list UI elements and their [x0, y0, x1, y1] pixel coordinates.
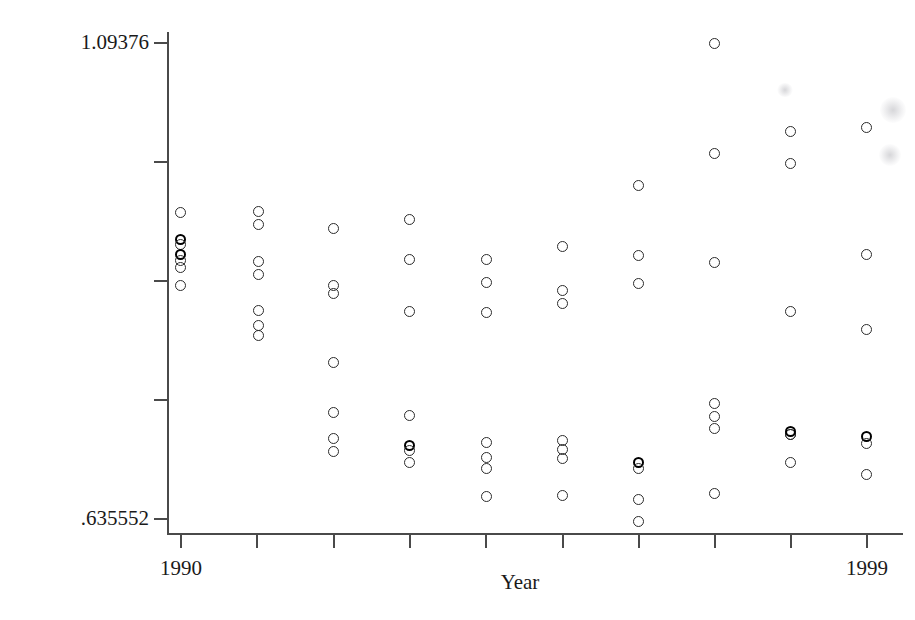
data-point	[557, 285, 568, 296]
data-point	[633, 180, 644, 191]
data-point	[253, 330, 264, 341]
data-point	[253, 219, 264, 230]
data-point	[861, 469, 872, 480]
data-point	[481, 307, 492, 318]
data-point	[328, 288, 339, 299]
data-point	[633, 494, 644, 505]
data-point	[785, 306, 796, 317]
y-axis-tick	[154, 161, 168, 163]
data-point	[481, 437, 492, 448]
scan-artifact	[879, 144, 901, 166]
x-axis-tick	[409, 535, 411, 548]
data-point	[709, 257, 720, 268]
x-axis-max-label: 1999	[836, 556, 898, 581]
data-point	[404, 410, 415, 421]
y-axis-tick	[154, 280, 168, 282]
x-axis-tick	[790, 535, 792, 548]
x-axis-tick	[485, 535, 487, 548]
data-point	[328, 446, 339, 457]
data-point	[785, 426, 796, 437]
data-point	[785, 126, 796, 137]
data-point	[175, 207, 186, 218]
data-point	[175, 280, 186, 291]
x-axis-tick	[562, 535, 564, 548]
data-point	[785, 457, 796, 468]
data-point	[404, 254, 415, 265]
data-point	[633, 250, 644, 261]
data-point	[253, 305, 264, 316]
data-point	[404, 457, 415, 468]
data-point	[404, 306, 415, 317]
data-point	[175, 239, 186, 250]
y-axis-tick	[154, 42, 168, 44]
data-point	[861, 438, 872, 449]
x-axis-tick	[333, 535, 335, 548]
data-point	[404, 445, 415, 456]
scan-artifact	[880, 97, 906, 123]
y-axis-tick	[154, 518, 168, 520]
y-axis-line	[167, 32, 169, 535]
data-point	[709, 148, 720, 159]
data-point	[557, 453, 568, 464]
data-point	[709, 423, 720, 434]
data-point	[633, 463, 644, 474]
scan-artifact	[777, 83, 793, 97]
data-point	[328, 357, 339, 368]
y-axis-max-label: 1.09376	[81, 31, 149, 53]
data-point	[481, 254, 492, 265]
data-point	[328, 223, 339, 234]
data-point	[861, 249, 872, 260]
x-axis-line	[167, 533, 903, 535]
data-point	[633, 278, 644, 289]
data-point	[481, 491, 492, 502]
data-point	[481, 277, 492, 288]
data-point	[709, 398, 720, 409]
data-point	[253, 206, 264, 217]
data-point	[328, 433, 339, 444]
x-axis-tick	[714, 535, 716, 548]
data-point	[861, 324, 872, 335]
data-point	[557, 298, 568, 309]
y-axis-min-label: .635552	[81, 507, 149, 529]
data-point	[253, 269, 264, 280]
data-point	[861, 122, 872, 133]
data-point	[253, 256, 264, 267]
y-axis-tick	[154, 399, 168, 401]
data-point	[253, 320, 264, 331]
data-point	[175, 262, 186, 273]
data-point	[709, 411, 720, 422]
x-axis-title: Year	[460, 570, 580, 595]
data-point	[633, 516, 644, 527]
data-point	[557, 490, 568, 501]
x-axis-tick	[866, 535, 868, 548]
x-axis-tick	[180, 535, 182, 548]
x-axis-min-label: 1990	[150, 556, 212, 581]
x-axis-tick	[638, 535, 640, 548]
data-point	[328, 407, 339, 418]
scatter-plot: 1.09376 .635552 rw_c_bor 1990 1999 Year	[0, 0, 915, 620]
data-point	[481, 452, 492, 463]
data-point	[785, 158, 796, 169]
data-point	[481, 463, 492, 474]
x-axis-tick	[256, 535, 258, 548]
data-point	[404, 214, 415, 225]
data-point	[709, 488, 720, 499]
data-point	[557, 241, 568, 252]
data-point	[709, 38, 720, 49]
